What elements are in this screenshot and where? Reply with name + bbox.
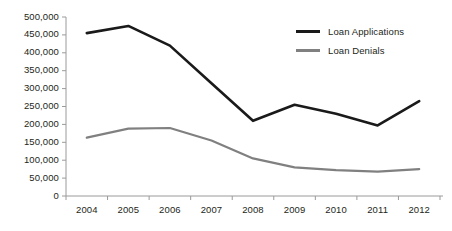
x-tick-label: 2004 [66, 204, 108, 215]
y-tick-label: 250,000 [24, 100, 59, 111]
series-line-loan-denials [87, 128, 419, 172]
line-chart: 050,000100,000150,000200,000250,000300,0… [0, 0, 452, 231]
x-tick-label: 2006 [149, 204, 191, 215]
chart-legend: Loan Applications Loan Denials [296, 22, 404, 60]
y-tick-label: 150,000 [24, 136, 59, 147]
x-tick-label: 2008 [232, 204, 274, 215]
x-tick-label: 2007 [191, 204, 233, 215]
legend-label-loan-denials: Loan Denials [328, 45, 385, 56]
y-tick-label: 200,000 [24, 118, 59, 129]
x-tick-label: 2010 [315, 204, 357, 215]
legend-item-loan-denials: Loan Denials [296, 41, 404, 60]
legend-swatch-loan-applications-icon [296, 30, 320, 33]
y-tick-label: 100,000 [24, 154, 59, 165]
x-tick-label: 2011 [357, 204, 399, 215]
y-tick-label: 500,000 [24, 11, 59, 22]
x-tick-label: 2012 [398, 204, 440, 215]
y-tick-label: 50,000 [29, 172, 59, 183]
y-tick-label: 400,000 [24, 46, 59, 57]
legend-swatch-loan-denials-icon [296, 49, 320, 52]
y-tick-label: 350,000 [24, 64, 59, 75]
y-tick-label: 0 [54, 190, 59, 201]
legend-item-loan-applications: Loan Applications [296, 22, 404, 41]
y-tick-label: 450,000 [24, 28, 59, 39]
x-tick-label: 2009 [274, 204, 316, 215]
legend-label-loan-applications: Loan Applications [328, 26, 404, 37]
y-tick-label: 300,000 [24, 82, 59, 93]
x-tick-label: 2005 [108, 204, 150, 215]
